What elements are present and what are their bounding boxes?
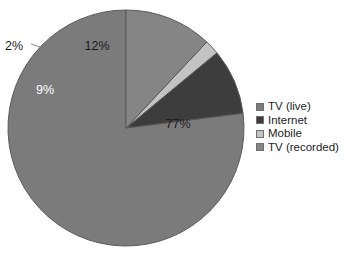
legend-swatch-icon — [256, 116, 264, 124]
slice-value-label: 9% — [36, 83, 54, 97]
legend-item[interactable]: TV (live) — [256, 100, 348, 114]
slice-value-label: 77% — [165, 117, 190, 131]
legend-item-label: TV (recorded) — [268, 141, 339, 155]
legend-item-label: Internet — [268, 114, 307, 128]
legend-swatch-icon — [256, 103, 264, 111]
legend-item-label: Mobile — [268, 127, 302, 141]
chart-legend: TV (live)InternetMobileTV (recorded) — [256, 100, 348, 154]
legend-swatch-icon — [256, 130, 264, 138]
pie-slices-group — [8, 10, 244, 246]
legend-item[interactable]: Mobile — [256, 127, 348, 141]
pie-chart: 77%9%2%12% TV (live)InternetMobileTV (re… — [0, 0, 348, 258]
legend-swatch-icon — [256, 143, 264, 151]
legend-item[interactable]: Internet — [256, 114, 348, 128]
legend-item[interactable]: TV (recorded) — [256, 141, 348, 155]
slice-value-label: 2% — [5, 39, 23, 53]
legend-item-label: TV (live) — [268, 100, 311, 114]
slice-value-label: 12% — [84, 39, 109, 53]
